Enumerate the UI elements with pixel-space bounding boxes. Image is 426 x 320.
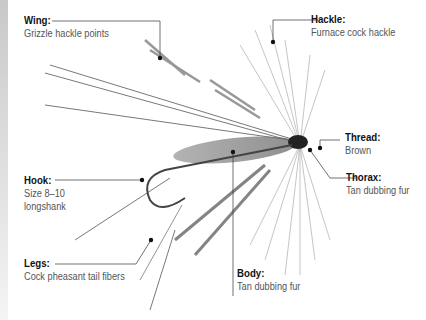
- label-title: Thorax:: [346, 171, 409, 184]
- label-title: Legs:: [24, 257, 125, 270]
- label-thorax: Thorax: Tan dubbing fur: [346, 171, 415, 197]
- label-title: Wing:: [24, 14, 109, 27]
- legs: [175, 165, 270, 255]
- label-desc: Furnace cock hackle: [311, 26, 395, 39]
- label-hackle: Hackle: Furnace cock hackle: [311, 13, 403, 39]
- label-wing: Wing: Grizzle hackle points: [24, 14, 116, 40]
- label-title: Body:: [237, 267, 300, 280]
- label-desc: Cock pheasant tail fibers: [24, 270, 125, 283]
- label-desc: Brown: [345, 144, 380, 157]
- label-title: Hook:: [24, 174, 66, 187]
- label-body: Body: Tan dubbing fur: [237, 267, 306, 293]
- label-hook: Hook: Size 8–10 longshank: [24, 174, 70, 213]
- label-desc: longshank: [24, 200, 66, 213]
- label-desc: Tan dubbing fur: [237, 280, 300, 293]
- label-title: Hackle:: [311, 13, 395, 26]
- label-desc: Grizzle hackle points: [24, 27, 109, 40]
- label-legs: Legs: Cock pheasant tail fibers: [24, 257, 134, 283]
- fly-body: [172, 132, 298, 169]
- fly-head: [288, 135, 308, 149]
- label-desc: Size 8–10: [24, 187, 66, 200]
- label-title: Thread:: [345, 131, 380, 144]
- label-desc: Tan dubbing fur: [346, 184, 409, 197]
- label-thread: Thread: Brown: [345, 131, 384, 157]
- wing-feathers: [145, 40, 260, 118]
